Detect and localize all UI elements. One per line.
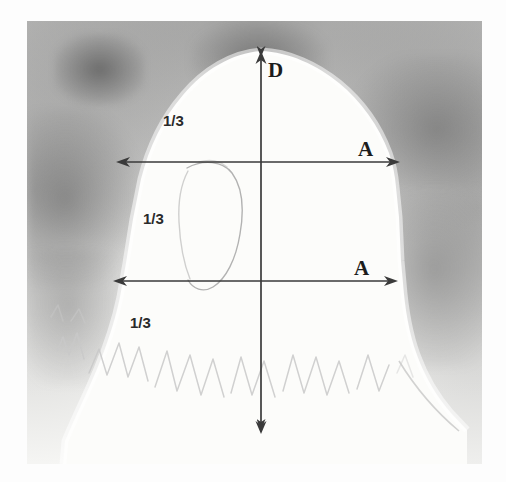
head-drawing	[27, 21, 482, 464]
upper-third-label: 1/3	[163, 113, 184, 128]
lower-width-axis-label: A	[354, 258, 369, 279]
middle-third-label: 1/3	[143, 211, 164, 226]
upper-width-axis-label: A	[358, 139, 373, 160]
figure-canvas: D A A 1/3 1/3 1/3	[0, 0, 506, 482]
lower-third-label: 1/3	[130, 315, 151, 330]
drawing-paper	[27, 21, 482, 464]
depth-axis-label: D	[268, 60, 283, 81]
